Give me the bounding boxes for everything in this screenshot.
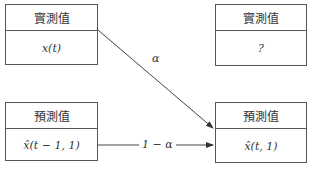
box-header: 預測值 xyxy=(216,103,306,129)
forecast-value-box-prev: 預測值 x̂(t − 1, 1) xyxy=(5,102,98,161)
box-header: 預測值 xyxy=(6,103,97,129)
edge-alpha-arrow xyxy=(98,30,213,128)
box-body: x̂(t − 1, 1) xyxy=(6,129,97,162)
box-body: x(t) xyxy=(6,31,97,66)
box-header: 實測值 xyxy=(216,5,306,31)
actual-value-box-t: 實測值 x(t) xyxy=(5,4,98,65)
actual-value-box-unknown: 實測值 ? xyxy=(215,4,307,66)
edge-label-alpha: α xyxy=(152,52,159,65)
box-body: x̂(t, 1) xyxy=(216,129,306,164)
box-body: ? xyxy=(216,31,306,66)
box-header: 實測值 xyxy=(6,5,97,31)
forecast-value-box-next: 預測值 x̂(t, 1) xyxy=(215,102,307,163)
edge-label-one-minus-alpha: 1 − α xyxy=(139,138,176,151)
